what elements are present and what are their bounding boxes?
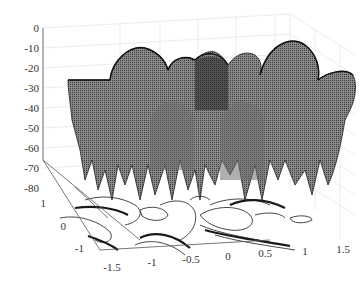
z-tick: -50 [24, 122, 39, 134]
surface-plot: 0 -10 -20 -30 -40 -50 -60 -70 -80 1 0 -1… [0, 0, 363, 285]
x-tick: 0.5 [258, 247, 272, 259]
x-tick: -0.5 [182, 253, 200, 265]
z-tick: -10 [24, 42, 39, 54]
z-tick: -80 [24, 182, 39, 194]
x-tick: 1 [302, 245, 308, 257]
z-tick: -20 [24, 62, 39, 74]
x-tick: 0 [225, 250, 231, 262]
x-tick: 1.5 [336, 243, 350, 255]
y-tick: -1 [75, 242, 84, 254]
z-tick: -70 [24, 162, 39, 174]
z-tick: -40 [24, 102, 39, 114]
surface-mesh [68, 41, 356, 200]
x-tick: -1.5 [103, 261, 121, 273]
z-tick: 0 [34, 22, 40, 34]
z-tick: -30 [24, 82, 39, 94]
z-tick: -60 [24, 142, 39, 154]
y-axis: 1 0 -1 [41, 197, 85, 254]
y-tick: 1 [41, 197, 47, 209]
z-axis: 0 -10 -20 -30 -40 -50 -60 -70 -80 [24, 22, 39, 194]
x-tick: -1 [147, 256, 156, 268]
y-tick: 0 [61, 220, 67, 232]
